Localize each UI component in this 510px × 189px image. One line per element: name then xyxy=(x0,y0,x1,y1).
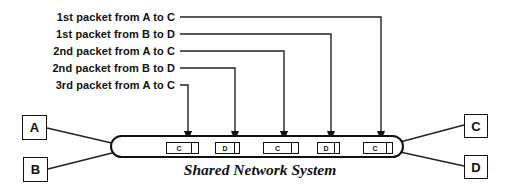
pipe-packet-5-trailer-cell xyxy=(386,143,392,153)
pipe-packet-5-destination: C xyxy=(364,143,386,153)
host-d-label: D xyxy=(471,160,480,175)
host-box-c: C xyxy=(464,114,488,138)
connector-3rd-packet-a-to-c xyxy=(180,85,188,132)
pipe-packet-4-destination: D xyxy=(318,143,334,153)
pipe-packet-2-trailer-cell xyxy=(234,143,239,153)
host-box-a: A xyxy=(22,115,47,140)
shared-network-diagram: 1st packet from A to C 1st packet from B… xyxy=(0,0,510,189)
label-3rd-packet-a-to-c: 3rd packet from A to C xyxy=(56,78,175,92)
pipe-packet-3-destination: C xyxy=(264,143,291,153)
pipe-packet-5: C xyxy=(363,142,393,154)
label-1st-packet-b-to-d: 1st packet from B to D xyxy=(56,27,175,41)
network-pipe xyxy=(110,135,404,158)
pipe-packet-4-trailer-cell xyxy=(334,143,339,153)
host-c-label: C xyxy=(471,119,480,134)
label-1st-packet-a-to-c: 1st packet from A to C xyxy=(57,10,175,24)
link-network-to-host-c xyxy=(400,125,464,142)
diagram-caption: Shared Network System xyxy=(160,161,360,179)
pipe-packet-4: D xyxy=(317,142,340,154)
pipe-packet-3: C xyxy=(263,142,299,154)
pipe-packet-3-trailer-cell xyxy=(291,143,298,153)
host-box-d: D xyxy=(464,155,488,179)
link-network-to-host-d xyxy=(400,152,464,166)
pipe-packet-1: C xyxy=(166,142,199,154)
host-box-b: B xyxy=(23,157,48,182)
link-host-b-to-network xyxy=(48,152,116,169)
pipe-packet-2: D xyxy=(215,142,240,154)
connector-1st-packet-b-to-d xyxy=(180,34,331,132)
label-2nd-packet-a-to-c: 2nd packet from A to C xyxy=(53,44,175,58)
pipe-packet-1-destination: C xyxy=(167,143,191,153)
host-a-label: A xyxy=(30,120,39,135)
label-2nd-packet-b-to-d: 2nd packet from B to D xyxy=(52,61,175,75)
connector-2nd-packet-a-to-c xyxy=(180,51,284,132)
link-host-a-to-network xyxy=(47,128,116,144)
pipe-packet-1-trailer-cell xyxy=(191,143,198,153)
pipe-packet-2-destination: D xyxy=(216,143,234,153)
host-b-label: B xyxy=(31,162,40,177)
